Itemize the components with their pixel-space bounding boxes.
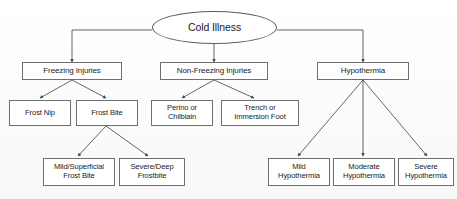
- edge-hypothermia-to-severe: [363, 80, 427, 156]
- edge-frostbite-to-mild-superficial: [78, 126, 106, 156]
- node-hypothermia[interactable]: Hypothermia: [317, 62, 409, 80]
- node-trench-or-immersion-foot[interactable]: Trench or Immersion Foot: [221, 100, 299, 126]
- node-cold-illness[interactable]: Cold Illness: [152, 11, 277, 44]
- node-mild-hypothermia[interactable]: Mild Hypothermia: [268, 158, 330, 186]
- node-severe-deep-frostbite[interactable]: Severe/Deep Frostbite: [119, 158, 185, 186]
- edge-frostbite-to-severe-deep: [106, 126, 148, 156]
- edge-nonfreezing-to-trench: [214, 80, 254, 98]
- edge-freezing-to-frost-bite: [72, 80, 106, 98]
- edge-root-to-freezing-injuries: [72, 30, 152, 62]
- edge-nonfreezing-to-perino: [182, 80, 214, 98]
- edge-root-to-hypothermia: [277, 30, 363, 62]
- cold-illness-flowchart: Cold Illness Freezing Injuries Non-Freez…: [0, 0, 457, 199]
- edge-freezing-to-frost-nip: [40, 80, 72, 98]
- node-perino-or-chilblain[interactable]: Perino or Chilblain: [151, 100, 213, 126]
- node-non-freezing-injuries[interactable]: Non-Freezing Injuries: [160, 62, 268, 80]
- edge-hypothermia-to-mild: [298, 80, 363, 156]
- node-frost-bite[interactable]: Frost Bite: [76, 100, 138, 126]
- node-frost-nip[interactable]: Frost Nip: [9, 100, 71, 126]
- node-mild-superficial-frost-bite[interactable]: Mild/Superficial Frost Bite: [43, 158, 115, 186]
- node-moderate-hypothermia[interactable]: Moderate Hypothermia: [333, 158, 395, 186]
- node-freezing-injuries[interactable]: Freezing Injuries: [22, 62, 122, 80]
- node-severe-hypothermia[interactable]: Severe Hypothermia: [398, 158, 454, 186]
